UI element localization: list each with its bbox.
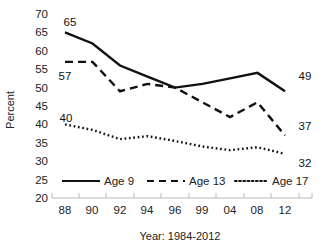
y-tick-35: 35 xyxy=(35,137,48,149)
x-tick-1: 90 xyxy=(86,204,99,216)
x-tick-3: 94 xyxy=(141,204,154,216)
x-tick-7: 08 xyxy=(251,204,264,216)
line-chart: 70 65 60 55 50 45 40 35 30 25 20 Percent xyxy=(0,0,328,251)
y-axis-tick-labels: 70 65 60 55 50 45 40 35 30 25 20 xyxy=(35,8,48,204)
label-age17-start: 40 xyxy=(60,112,73,124)
y-tick-25: 25 xyxy=(35,174,48,186)
legend: Age 9 Age 13 Age 17 xyxy=(62,175,308,187)
y-tick-45: 45 xyxy=(35,100,48,112)
y-tick-50: 50 xyxy=(35,82,48,94)
y-tick-55: 55 xyxy=(35,63,48,75)
legend-label-age-13: Age 13 xyxy=(189,175,225,187)
x-tick-4: 96 xyxy=(169,204,182,216)
y-tick-70: 70 xyxy=(35,8,48,20)
legend-label-age-17: Age 17 xyxy=(272,175,308,187)
x-tick-8: 12 xyxy=(279,204,292,216)
x-tick-6: 04 xyxy=(224,204,237,216)
series-line-age-9 xyxy=(65,32,285,91)
label-age13-end: 37 xyxy=(299,120,312,132)
label-age13-start: 57 xyxy=(59,70,72,82)
y-tick-40: 40 xyxy=(35,118,48,130)
x-axis xyxy=(52,193,312,198)
y-axis-title: Percent xyxy=(4,91,16,129)
series-line-age-17 xyxy=(65,124,285,153)
y-tick-60: 60 xyxy=(35,45,48,57)
label-age9-start: 65 xyxy=(64,16,77,28)
x-tick-2: 92 xyxy=(114,204,127,216)
x-tick-5: 99 xyxy=(196,204,209,216)
x-axis-tick-labels: 88 90 92 94 96 99 04 08 12 xyxy=(59,204,292,216)
x-axis-title: Year: 1984-2012 xyxy=(140,230,221,242)
chart-canvas: 70 65 60 55 50 45 40 35 30 25 20 Percent xyxy=(0,0,328,251)
y-tick-20: 20 xyxy=(35,192,48,204)
y-tick-30: 30 xyxy=(35,155,48,167)
label-age17-end: 32 xyxy=(299,157,312,169)
y-tick-65: 65 xyxy=(35,26,48,38)
x-tick-0: 88 xyxy=(59,204,72,216)
series-group xyxy=(65,32,285,153)
label-age9-end: 49 xyxy=(299,70,312,82)
legend-label-age-9: Age 9 xyxy=(104,175,134,187)
